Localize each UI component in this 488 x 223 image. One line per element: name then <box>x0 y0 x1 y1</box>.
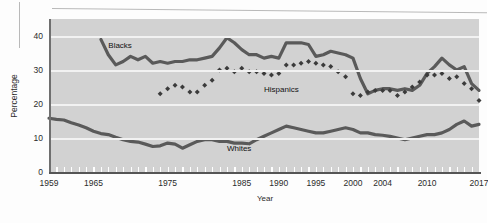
series-marker <box>210 78 215 83</box>
series-markers-hispanics <box>158 59 482 103</box>
series-marker <box>195 90 200 95</box>
series-marker <box>439 71 444 76</box>
series-marker <box>284 62 289 67</box>
x-tick-label: 1965 <box>84 178 103 188</box>
series-marker <box>447 76 452 81</box>
x-tick-label: 2017 <box>470 178 488 188</box>
series-marker <box>321 62 326 67</box>
series-marker <box>350 91 355 96</box>
x-tick-label: 1990 <box>269 178 288 188</box>
page-rule-left <box>19 2 20 48</box>
series-marker <box>299 61 304 66</box>
series-marker <box>313 61 318 66</box>
series-marker <box>187 90 192 95</box>
series-marker <box>477 98 482 103</box>
gridline <box>49 104 479 106</box>
series-marker <box>165 86 170 91</box>
series-label-whites: Whites <box>227 144 251 153</box>
series-marker <box>395 93 400 98</box>
series-marker <box>262 71 267 76</box>
x-tick-label: 2000 <box>343 178 362 188</box>
series-marker <box>328 64 333 69</box>
series-marker <box>180 85 185 90</box>
series-marker <box>173 83 178 88</box>
y-tick-label: 0 <box>38 167 43 177</box>
x-tick-label: 1985 <box>232 178 251 188</box>
x-tick-label: 1975 <box>158 178 177 188</box>
y-tick-label: 10 <box>34 133 43 143</box>
gridline <box>49 36 479 38</box>
gridline <box>49 138 479 140</box>
x-axis-line <box>49 172 481 174</box>
x-axis-label: Year <box>257 194 273 203</box>
series-marker <box>202 83 207 88</box>
y-axis-label: Percentage <box>9 74 19 117</box>
x-tick-label: 1959 <box>40 178 59 188</box>
page-rule-top <box>52 8 487 13</box>
x-tick-label: 2004 <box>373 178 392 188</box>
series-marker <box>269 73 274 78</box>
gridline <box>49 70 479 72</box>
series-marker <box>158 91 163 96</box>
y-tick-label: 40 <box>34 31 43 41</box>
y-axis-line <box>49 19 51 174</box>
series-label-blacks: Blacks <box>108 41 132 50</box>
x-tick-label: 2010 <box>418 178 437 188</box>
series-marker <box>343 74 348 79</box>
series-marker <box>358 93 363 98</box>
series-marker <box>462 81 467 86</box>
series-line-whites <box>49 118 479 148</box>
y-tick-label: 20 <box>34 99 43 109</box>
series-marker <box>454 74 459 79</box>
y-tick-label: 30 <box>34 65 43 75</box>
series-marker <box>291 62 296 67</box>
series-marker <box>432 73 437 78</box>
series-marker <box>276 71 281 76</box>
series-marker <box>306 59 311 64</box>
series-label-hispanics: Hispanics <box>264 85 299 94</box>
x-tick-label: 1995 <box>306 178 325 188</box>
